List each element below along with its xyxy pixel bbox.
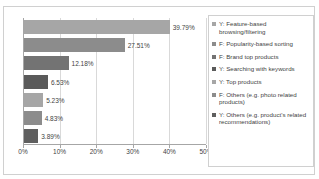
bar-row: 3.89% (24, 129, 207, 143)
bar-row: 4.83% (24, 111, 207, 125)
legend-swatch-icon (212, 55, 216, 59)
bar-value-label: 12.18% (69, 60, 94, 67)
bar (24, 38, 125, 52)
x-axis-tick-label: 40% (163, 148, 176, 156)
legend-item[interactable]: F: Brand top products (212, 53, 311, 61)
chart-frame: 39.79%27.51%12.18%6.53%5.23%4.83%3.89% 0… (3, 6, 315, 175)
legend-swatch-icon (212, 93, 216, 97)
legend-swatch-icon (212, 67, 216, 71)
legend-item-label: Y: Feature-based browsing/filtering (219, 20, 311, 35)
legend-list: Y: Feature-based browsing/filteringF: Po… (212, 20, 311, 126)
bar-value-label: 3.89% (38, 132, 59, 139)
bar-value-label: 4.83% (42, 114, 63, 121)
bar-value-label: 27.51% (125, 42, 150, 49)
legend-swatch-icon (212, 22, 216, 26)
bar-value-label: 39.79% (170, 24, 195, 31)
legend-swatch-icon (212, 113, 216, 117)
clipped-caption-strip (0, 0, 319, 5)
bar (24, 111, 42, 125)
bar-row: 39.79% (24, 20, 207, 34)
legend-item-label: F: Popularity-based sorting (219, 40, 293, 48)
bar-value-label: 6.53% (48, 78, 69, 85)
legend-item[interactable]: F: Others (e.g. photo related products) (212, 91, 311, 106)
legend-item-label: Y: Top products (219, 78, 262, 86)
x-axis: 0%10%20%30%40%50% (23, 145, 206, 159)
legend-swatch-icon (212, 80, 216, 84)
legend-item[interactable]: Y: Top products (212, 78, 311, 86)
legend-item-label: Y: Others (e.g. product's related recomm… (219, 111, 311, 126)
legend-item[interactable]: F: Popularity-based sorting (212, 40, 311, 48)
bar-row: 5.23% (24, 93, 207, 107)
bar (24, 75, 48, 89)
legend-item-label: Y: Searching with keywords (219, 65, 295, 73)
legend-item[interactable]: Y: Searching with keywords (212, 65, 311, 73)
x-axis-tick-label: 30% (126, 148, 139, 156)
bar-row: 27.51% (24, 38, 207, 52)
legend-item-label: F: Others (e.g. photo related products) (219, 91, 311, 106)
legend-swatch-icon (212, 42, 216, 46)
legend-item[interactable]: Y: Feature-based browsing/filtering (212, 20, 311, 35)
bar-row: 6.53% (24, 75, 207, 89)
bar (24, 129, 38, 143)
bar (24, 93, 43, 107)
chart-legend: Y: Feature-based browsing/filteringF: Po… (208, 15, 314, 167)
legend-item-label: F: Brand top products (219, 53, 279, 61)
chart-container: 39.79%27.51%12.18%6.53%5.23%4.83%3.89% 0… (0, 0, 319, 179)
legend-item[interactable]: Y: Others (e.g. product's related recomm… (212, 111, 311, 126)
bar-value-label: 5.23% (43, 96, 64, 103)
x-axis-tick-label: 10% (53, 148, 66, 156)
bar-series: 39.79%27.51%12.18%6.53%5.23%4.83%3.89% (24, 18, 206, 144)
x-axis-tick-label: 20% (90, 148, 103, 156)
bar (24, 56, 69, 70)
plot-area: 39.79%27.51%12.18%6.53%5.23%4.83%3.89% (23, 18, 206, 145)
x-axis-tick-label: 0% (18, 148, 27, 156)
bar-row: 12.18% (24, 56, 207, 70)
bar (24, 20, 170, 34)
